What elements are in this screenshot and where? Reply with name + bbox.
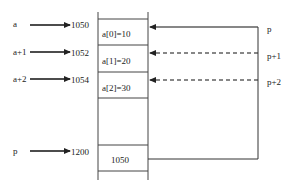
label-right-p-plus-2: p+2 xyxy=(267,77,281,87)
address-1052: 1052 xyxy=(71,48,89,58)
address-1054: 1054 xyxy=(71,75,89,85)
label-right-p: p xyxy=(267,24,272,34)
label-a-plus-1: a+1 xyxy=(13,47,27,57)
cell-a0: a[0]=10 xyxy=(102,29,131,39)
label-a-plus-2: a+2 xyxy=(13,74,27,84)
cell-p-value: 1050 xyxy=(111,155,129,165)
cell-a1: a[1]=20 xyxy=(102,56,131,66)
pointer-arrows xyxy=(148,27,258,159)
address-1200: 1200 xyxy=(71,147,89,157)
address-1050: 1050 xyxy=(71,20,89,30)
address-arrows xyxy=(30,25,70,151)
label-right-p-plus-1: p+1 xyxy=(267,51,281,61)
label-p: p xyxy=(13,146,18,156)
cell-a2: a[2]=30 xyxy=(102,83,131,93)
label-a: a xyxy=(13,19,17,29)
pointer-diagram xyxy=(0,0,285,190)
